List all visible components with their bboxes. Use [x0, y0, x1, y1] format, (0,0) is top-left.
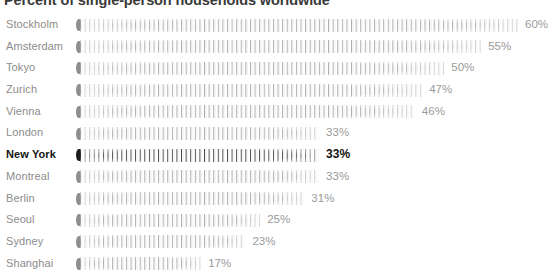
bar-value-label: 25% — [267, 209, 290, 231]
bar-hatch-fill — [80, 127, 319, 140]
chart-container: Percent of single-person households worl… — [0, 0, 558, 273]
bar-row: Shanghai17% — [0, 253, 558, 273]
bar-hatch-fill — [80, 84, 422, 97]
bar-value-label: 55% — [488, 36, 511, 58]
bar — [76, 40, 481, 53]
bar-category-label: Zurich — [6, 79, 37, 101]
bar-category-label: New York — [6, 144, 56, 166]
bar — [76, 105, 415, 118]
bar-hatch-fill — [80, 62, 444, 75]
bar-category-label: London — [6, 122, 43, 144]
bar-value-label: 47% — [429, 79, 452, 101]
bar-category-label: Sydney — [6, 231, 43, 253]
bar-row: Amsterdam55% — [0, 36, 558, 58]
bar-hatch-fill — [80, 192, 304, 205]
bar-category-label: Montreal — [6, 166, 50, 188]
bar-category-label: Tokyo — [6, 57, 35, 79]
bar-hatch-fill — [80, 235, 245, 248]
bar — [76, 149, 319, 162]
bar — [76, 84, 422, 97]
bar-category-label: Berlin — [6, 188, 35, 210]
bar-hatch-fill — [80, 105, 415, 118]
chart-title: Percent of single-person households worl… — [4, 0, 554, 8]
bar — [76, 214, 260, 227]
bar-value-label: 31% — [311, 188, 334, 210]
bar-category-label: Seoul — [6, 209, 35, 231]
bar-value-label: 33% — [326, 166, 349, 188]
bar-hatch-fill — [80, 19, 518, 32]
bar-category-label: Stockholm — [6, 14, 58, 36]
bar — [76, 257, 201, 270]
bar-row: New York33% — [0, 144, 558, 166]
bar-category-label: Shanghai — [6, 253, 53, 273]
bar-hatch-fill — [80, 149, 319, 162]
bar — [76, 170, 319, 183]
bar — [76, 235, 245, 248]
bar-row: Stockholm60% — [0, 14, 558, 36]
bar-row: Montreal33% — [0, 166, 558, 188]
bar-row: Vienna46% — [0, 101, 558, 123]
bar-row: Tokyo50% — [0, 57, 558, 79]
bar-row: London33% — [0, 122, 558, 144]
bar-value-label: 60% — [525, 14, 548, 36]
bar-row: Berlin31% — [0, 188, 558, 210]
bar-hatch-fill — [80, 257, 201, 270]
bar-row: Zurich47% — [0, 79, 558, 101]
bar-row: Seoul25% — [0, 209, 558, 231]
bar-value-label: 17% — [208, 253, 231, 273]
bar-category-label: Amsterdam — [6, 36, 63, 58]
bar — [76, 62, 444, 75]
bar-rows: Stockholm60%Amsterdam55%Tokyo50%Zurich47… — [0, 14, 558, 273]
bar-hatch-fill — [80, 40, 481, 53]
bar-value-label: 33% — [326, 144, 350, 166]
bar — [76, 127, 319, 140]
bar-value-label: 50% — [451, 57, 474, 79]
bar — [76, 192, 304, 205]
bar-value-label: 23% — [252, 231, 275, 253]
bar — [76, 19, 518, 32]
bar-hatch-fill — [80, 170, 319, 183]
bar-value-label: 33% — [326, 122, 349, 144]
bar-value-label: 46% — [422, 101, 445, 123]
bar-hatch-fill — [80, 214, 260, 227]
bar-category-label: Vienna — [6, 101, 41, 123]
bar-row: Sydney23% — [0, 231, 558, 253]
